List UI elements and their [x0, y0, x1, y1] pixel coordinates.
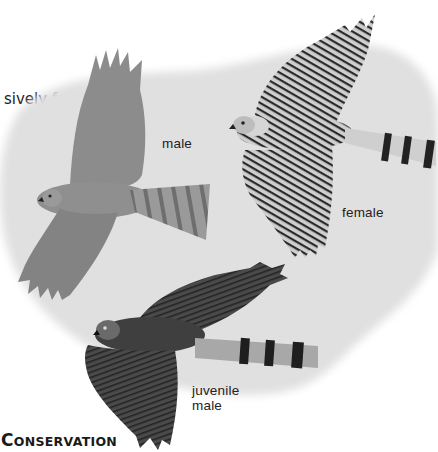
label-juvenile-male: juvenile male [192, 383, 239, 413]
section-heading-conservation: CONSERVATION [1, 430, 117, 450]
label-female: female [342, 205, 384, 220]
label-juvenile-line1: juvenile [192, 383, 239, 398]
label-juvenile-line2: male [192, 398, 239, 413]
label-male: male [162, 136, 192, 151]
heading-rest: ONSERVATION [14, 434, 117, 449]
heading-initial: C [1, 430, 14, 450]
